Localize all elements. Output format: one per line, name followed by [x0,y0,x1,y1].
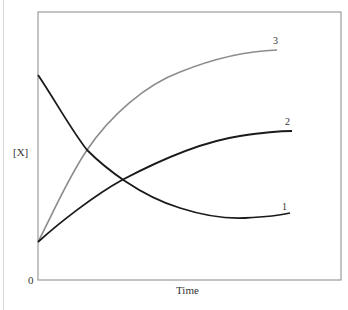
curve-3-label: 3 [273,36,278,46]
curve-2-label: 2 [285,117,290,127]
x-axis-label: Time [176,285,199,296]
y-origin-label: 0 [28,275,34,286]
curve-1 [38,75,290,218]
curve-2 [38,131,292,242]
y-axis-label: [X] [13,147,28,158]
curve-1-label: 1 [282,202,287,212]
chart-canvas [0,0,348,310]
